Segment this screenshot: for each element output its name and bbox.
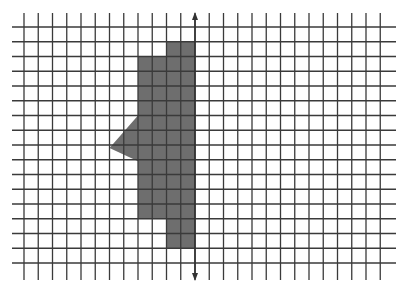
grid-diagram: [0, 0, 404, 289]
